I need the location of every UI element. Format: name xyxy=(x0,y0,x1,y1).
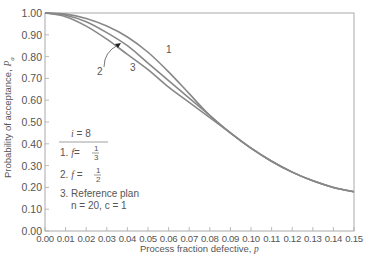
svg-text:1. f=: 1. f= xyxy=(60,147,80,158)
oc-curve-chart: 0.000.100.200.300.400.500.600.700.800.90… xyxy=(0,0,371,263)
x-tick-label: 0.00 xyxy=(36,233,53,244)
y-tick-label: 0.90 xyxy=(22,29,43,41)
x-tick-label: 0.01 xyxy=(57,233,74,244)
curve-3 xyxy=(45,13,354,192)
svg-text:1: 1 xyxy=(96,166,101,175)
x-tick-label: 0.12 xyxy=(283,233,300,244)
svg-text:n = 20, c = 1: n = 20, c = 1 xyxy=(71,200,127,211)
y-tick-label: 0.80 xyxy=(22,51,43,63)
curves xyxy=(45,13,354,192)
x-tick-label: 0.13 xyxy=(304,233,321,244)
svg-text:i = 8: i = 8 xyxy=(71,128,91,139)
curve-2-pointer-arrow xyxy=(104,45,118,67)
y-tick-label: 0.30 xyxy=(22,160,43,172)
svg-text:3. Reference plan: 3. Reference plan xyxy=(60,188,139,199)
x-tick-label: 0.11 xyxy=(263,233,280,244)
y-tick-label: 0.10 xyxy=(22,203,43,215)
y-axis-label: Probability of acceptance, Pa xyxy=(2,57,16,178)
y-tick-label: 0.50 xyxy=(22,116,43,128)
x-axis-label: Process fraction defective, p xyxy=(140,243,259,254)
svg-text:3: 3 xyxy=(94,153,99,162)
y-tick-label: 0.60 xyxy=(22,94,43,106)
x-tick-label: 0.14 xyxy=(325,233,343,244)
y-tick-label: 0.40 xyxy=(22,138,43,150)
curve-label-2: 2 xyxy=(97,66,103,77)
curve-label-1: 1 xyxy=(166,44,172,55)
svg-text:2: 2 xyxy=(96,175,101,184)
x-tick-label: 0.15 xyxy=(345,233,362,244)
curve-2 xyxy=(45,13,354,192)
curve-label-3: 3 xyxy=(130,62,136,73)
y-tick-label: 0.20 xyxy=(22,181,43,193)
x-tick-label: 0.04 xyxy=(119,233,137,244)
legend: i = 8 1. f= 1 3 2. f = 1 2 3. Reference … xyxy=(59,128,139,211)
svg-text:1: 1 xyxy=(94,144,99,153)
y-tick-label: 1.00 xyxy=(22,7,43,19)
x-tick-label: 0.03 xyxy=(98,233,115,244)
y-tick-label: 0.70 xyxy=(22,72,43,84)
curve-1 xyxy=(45,13,354,192)
x-tick-label: 0.02 xyxy=(77,233,94,244)
svg-text:2. f =: 2. f = xyxy=(60,169,83,180)
